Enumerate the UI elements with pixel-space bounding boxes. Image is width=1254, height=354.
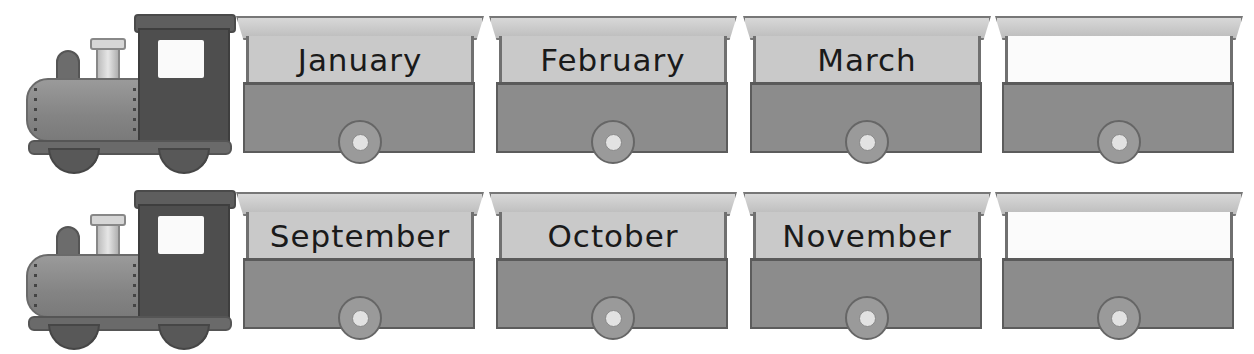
rivets	[34, 264, 37, 308]
wheel-hub	[352, 310, 369, 327]
month-label: September	[270, 218, 450, 254]
steam-engine-icon	[26, 190, 234, 350]
wheel-icon	[591, 296, 635, 340]
carriage: February	[489, 16, 735, 178]
engine-chimney-cap	[90, 38, 126, 50]
rivets	[34, 88, 37, 132]
carriage-blank	[995, 16, 1241, 178]
wheel-icon	[591, 120, 635, 164]
wheel-icon	[1097, 120, 1141, 164]
carriage-blank	[995, 192, 1241, 354]
carriage-label-panel: October	[499, 212, 727, 259]
month-label: March	[817, 42, 917, 78]
carriage: September	[236, 192, 482, 354]
wheel-hub	[605, 310, 622, 327]
wheel-icon	[338, 120, 382, 164]
engine-boiler	[26, 254, 144, 318]
rivets	[133, 88, 136, 132]
engine-wheel-icon	[48, 324, 100, 350]
blank-label-panel[interactable]	[1005, 36, 1233, 83]
engine-cab	[138, 204, 230, 326]
train-row-1: January February March	[0, 14, 1254, 184]
carriage-label-panel: September	[246, 212, 474, 259]
train-row-2: September October November	[0, 190, 1254, 354]
carriage: March	[743, 16, 989, 178]
carriage-label-panel: February	[499, 36, 727, 83]
wheel-icon	[845, 296, 889, 340]
engine-window	[158, 40, 204, 78]
wheel-hub	[605, 134, 622, 151]
carriage-label-panel: January	[246, 36, 474, 83]
carriage-label-panel: March	[753, 36, 981, 83]
engine-chimney-cap	[90, 214, 126, 226]
month-label: January	[298, 42, 423, 78]
carriage: November	[743, 192, 989, 354]
carriage: January	[236, 16, 482, 178]
wheel-hub	[1111, 310, 1128, 327]
wheel-hub	[859, 134, 876, 151]
wheel-hub	[352, 134, 369, 151]
engine-window	[158, 216, 204, 254]
engine-wheel-icon	[158, 324, 210, 350]
carriage: October	[489, 192, 735, 354]
engine-wheel-icon	[158, 148, 210, 174]
engine-boiler	[26, 78, 144, 142]
wheel-hub	[1111, 134, 1128, 151]
month-label: February	[540, 42, 685, 78]
month-label: October	[547, 218, 678, 254]
rivets	[133, 264, 136, 308]
wheel-icon	[338, 296, 382, 340]
blank-label-panel[interactable]	[1005, 212, 1233, 259]
carriage-label-panel: November	[753, 212, 981, 259]
wheel-icon	[1097, 296, 1141, 340]
engine-cab	[138, 28, 230, 150]
wheel-hub	[859, 310, 876, 327]
steam-engine-icon	[26, 14, 234, 174]
month-label: November	[782, 218, 951, 254]
engine-wheel-icon	[48, 148, 100, 174]
wheel-icon	[845, 120, 889, 164]
